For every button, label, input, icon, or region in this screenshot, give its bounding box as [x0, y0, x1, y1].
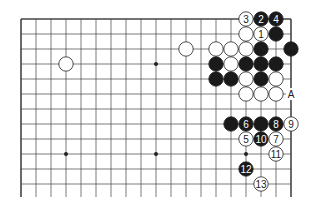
black-stone [269, 57, 283, 71]
move-number: 12 [240, 164, 252, 175]
black-stone [284, 42, 298, 56]
move-number: 7 [273, 134, 279, 145]
move-number: 2 [258, 14, 264, 25]
move-number: 13 [255, 179, 267, 190]
black-stone [224, 72, 238, 86]
point-marker-label: A [288, 89, 295, 100]
black-stone [254, 42, 268, 56]
white-stone [209, 42, 223, 56]
white-stone [224, 42, 238, 56]
move-number: 10 [255, 134, 267, 145]
move-number: 1 [258, 29, 264, 40]
black-stone [239, 57, 253, 71]
star-point [154, 152, 158, 156]
white-stone [254, 87, 268, 101]
black-stone [254, 117, 268, 131]
move-number: 5 [243, 134, 249, 145]
star-point [154, 62, 158, 66]
white-stone [239, 87, 253, 101]
black-stone [209, 57, 223, 71]
star-point [64, 152, 68, 156]
white-stone [239, 27, 253, 41]
star-point [244, 152, 248, 156]
white-stone [269, 72, 283, 86]
black-stone [209, 72, 223, 86]
black-stone [224, 117, 238, 131]
black-stone [254, 57, 268, 71]
white-stone [239, 72, 253, 86]
move-number: 9 [288, 119, 294, 130]
move-number: 4 [273, 14, 279, 25]
white-stone [239, 42, 253, 56]
move-number: 11 [271, 149, 282, 160]
move-number: 8 [273, 119, 279, 130]
white-stone [269, 87, 283, 101]
move-number: 6 [243, 119, 249, 130]
white-stone [224, 57, 238, 71]
white-stone [179, 42, 193, 56]
white-stone [59, 57, 73, 71]
move-number: 3 [243, 14, 249, 25]
black-stone [269, 27, 283, 41]
black-stone [254, 72, 268, 86]
go-board-diagram: 32416895107111213A [0, 0, 315, 211]
